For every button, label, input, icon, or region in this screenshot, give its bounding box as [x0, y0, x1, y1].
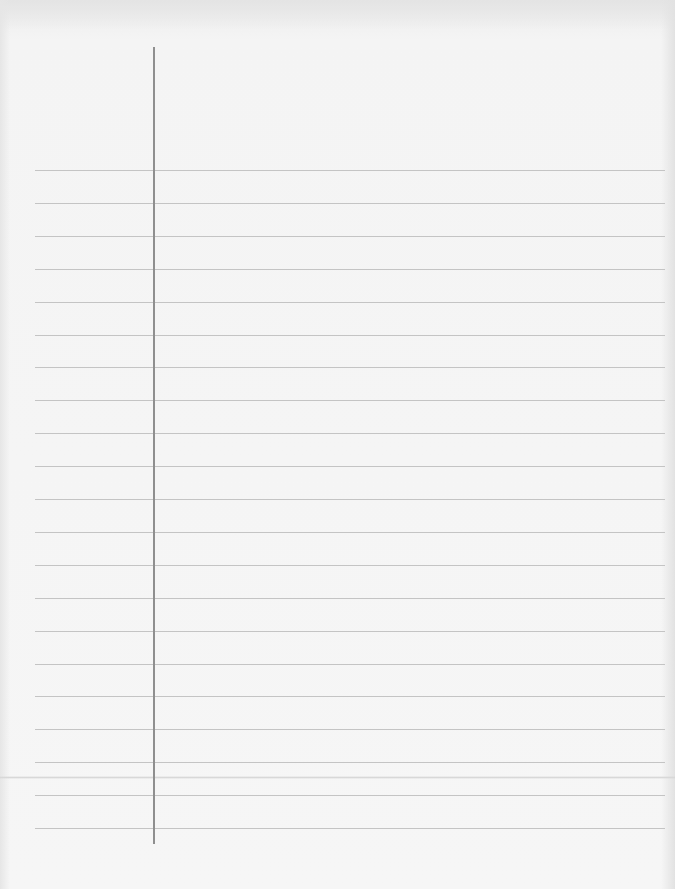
- ruled-line: [35, 762, 665, 763]
- ruled-line: [35, 170, 665, 171]
- ruled-line: [35, 269, 665, 270]
- ruled-line: [35, 400, 665, 401]
- scan-left-edge: [0, 0, 10, 889]
- ruled-line: [35, 828, 665, 829]
- ruled-line: [35, 532, 665, 533]
- ruled-line: [35, 335, 665, 336]
- ruled-line: [35, 795, 665, 796]
- ruled-line: [35, 203, 665, 204]
- scan-top-shadow: [0, 0, 675, 30]
- scan-streak: [0, 776, 675, 779]
- ruled-line: [35, 664, 665, 665]
- ruled-line: [35, 696, 665, 697]
- ruled-line: [35, 598, 665, 599]
- ruled-line: [35, 466, 665, 467]
- ruled-line: [35, 367, 665, 368]
- ruled-line: [35, 499, 665, 500]
- ruled-line: [35, 631, 665, 632]
- ruled-line: [35, 565, 665, 566]
- lined-paper-page: [0, 0, 675, 889]
- ruled-line: [35, 433, 665, 434]
- ruled-line: [35, 729, 665, 730]
- scan-right-edge: [661, 0, 675, 889]
- ruled-line: [35, 236, 665, 237]
- ruled-line: [35, 302, 665, 303]
- margin-line: [153, 47, 155, 844]
